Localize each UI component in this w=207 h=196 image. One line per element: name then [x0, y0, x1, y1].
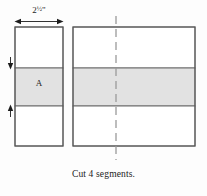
dimension-unit: " [42, 5, 46, 15]
left-strip-band-bottom [15, 106, 63, 146]
dimension-arrowhead-right [57, 19, 64, 24]
dimension-arrowhead-left [15, 19, 22, 24]
left-strip-band-top [15, 27, 63, 68]
strip-width-dimension-label: 2½" [13, 5, 65, 15]
quilting-cutting-diagram [0, 0, 207, 196]
right-strip-band-top [73, 27, 195, 68]
band-edge-markers [8, 57, 13, 117]
band-top-arrow-icon [8, 63, 13, 70]
segment-a-label: A [14, 78, 64, 88]
band-bottom-arrow-icon [8, 105, 13, 112]
right-strip-set [73, 27, 195, 146]
right-strip-band-middle-shaded [73, 68, 195, 106]
figure-caption: Cut 4 segments. [0, 169, 207, 179]
right-strip-band-bottom [73, 106, 195, 146]
dimension-line-group [15, 19, 64, 24]
